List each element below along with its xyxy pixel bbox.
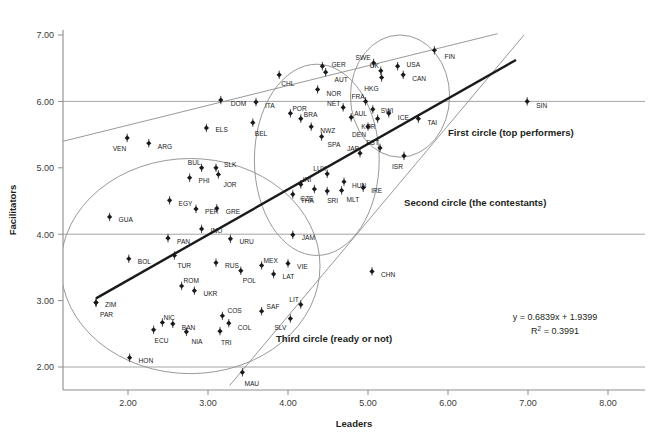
point-label: VIE bbox=[297, 263, 308, 270]
y-axis-title: Facilitators bbox=[7, 185, 18, 236]
point-label: NIA bbox=[191, 338, 203, 345]
point-label: NIC bbox=[163, 314, 175, 321]
data-point-jam[interactable]: JAM bbox=[290, 231, 315, 242]
point-label: SLK bbox=[224, 161, 237, 168]
data-point-nor[interactable]: NOR bbox=[315, 85, 341, 97]
point-label: SLV bbox=[274, 324, 287, 331]
point-label: IRE bbox=[371, 187, 383, 194]
data-point-vie[interactable]: VIE bbox=[285, 259, 308, 270]
point-label: BUL bbox=[188, 159, 201, 166]
data-point-est[interactable]: EST bbox=[366, 139, 382, 152]
data-point-lat[interactable]: LAT bbox=[271, 270, 294, 281]
data-point-saf[interactable]: SAF bbox=[259, 303, 279, 316]
data-point-lit[interactable]: LIT bbox=[289, 296, 303, 309]
data-point-ven[interactable]: VEN bbox=[113, 134, 130, 153]
data-point-kor[interactable]: KOR bbox=[361, 114, 380, 130]
data-point-ban[interactable]: BAN bbox=[170, 320, 195, 332]
data-point-nwz[interactable]: NWZ bbox=[309, 122, 336, 134]
data-point-ukr[interactable]: UKR bbox=[192, 286, 218, 297]
data-point-els[interactable]: ELS bbox=[204, 124, 229, 134]
point-label: MEX bbox=[264, 257, 279, 264]
point-label: GER bbox=[331, 61, 346, 68]
point-label: EST bbox=[366, 139, 379, 146]
data-point-sri[interactable]: SRI bbox=[325, 187, 339, 205]
data-point-tur[interactable]: TUR bbox=[172, 251, 191, 269]
point-label: URU bbox=[239, 238, 254, 245]
point-label: EGY bbox=[179, 200, 194, 207]
scatter-chart: FINSWEUSAUKCANHKGGERAUTCHLNORDOMITASINFR… bbox=[0, 0, 654, 446]
data-point-bra[interactable]: BRA bbox=[298, 111, 318, 123]
data-point-slv[interactable]: SLV bbox=[274, 314, 293, 331]
point-label: INI bbox=[303, 176, 312, 183]
point-label: JAP bbox=[347, 145, 360, 152]
data-point-ger[interactable]: GER bbox=[320, 61, 346, 71]
y-tick-label: 5.00 bbox=[36, 163, 54, 173]
equation-group: y = 0.6839x + 1.9399R2 = 0.3991 bbox=[513, 312, 598, 336]
point-label: TUR bbox=[177, 262, 191, 269]
point-label: DOM bbox=[231, 100, 246, 107]
point-label: DEN bbox=[352, 131, 366, 138]
data-point-pan[interactable]: PAN bbox=[165, 234, 190, 245]
data-point-tri[interactable]: TRI bbox=[217, 327, 231, 346]
data-point-rus[interactable]: RUS bbox=[213, 259, 239, 270]
point-label: PAN bbox=[177, 238, 190, 245]
data-point-per[interactable]: PER bbox=[193, 205, 218, 216]
point-label: THA bbox=[301, 197, 315, 204]
data-point-jor[interactable]: JOR bbox=[216, 170, 237, 188]
cluster-annotation: Third circle (ready or not) bbox=[276, 333, 392, 344]
data-point-mex[interactable]: MEX bbox=[259, 257, 278, 270]
point-label: CAN bbox=[412, 75, 426, 82]
data-point-bel[interactable]: BEL bbox=[250, 118, 267, 137]
x-tick-label: 6.00 bbox=[439, 398, 457, 408]
data-point-arg[interactable]: ARG bbox=[146, 139, 172, 150]
data-point-egy[interactable]: EGY bbox=[167, 196, 193, 207]
data-point-pol[interactable]: POL bbox=[238, 267, 256, 285]
point-label: ARG bbox=[158, 143, 172, 150]
data-point-chl[interactable]: CHL bbox=[277, 71, 295, 88]
data-point-isr[interactable]: ISR bbox=[392, 152, 407, 171]
point-label: NWZ bbox=[320, 127, 335, 134]
data-point-bul[interactable]: BUL bbox=[188, 159, 204, 172]
point-label: TRI bbox=[221, 339, 232, 346]
data-point-bol[interactable]: BOL bbox=[126, 255, 151, 266]
data-point-sin[interactable]: SIN bbox=[525, 97, 548, 109]
data-point-uk[interactable]: UK bbox=[370, 62, 384, 75]
data-point-gua[interactable]: GUA bbox=[107, 213, 133, 224]
data-point-cos[interactable]: COS bbox=[220, 307, 242, 320]
data-point-aut[interactable]: AUT bbox=[323, 68, 348, 83]
point-label: ELS bbox=[215, 126, 228, 133]
point-label: TAI bbox=[427, 119, 437, 126]
data-point-mau[interactable]: MAU bbox=[240, 368, 259, 387]
data-point-hkg[interactable]: HKG bbox=[364, 73, 384, 92]
data-point-spa[interactable]: SPA bbox=[319, 132, 341, 148]
point-label: SWE bbox=[356, 54, 372, 61]
x-tick-label: 2.00 bbox=[119, 398, 137, 408]
data-point-usa[interactable]: USA bbox=[395, 61, 421, 71]
data-point-hon[interactable]: HON bbox=[127, 354, 153, 365]
data-point-uru[interactable]: URU bbox=[228, 235, 254, 246]
data-point-ino[interactable]: INO bbox=[199, 225, 222, 235]
data-point-ita[interactable]: ITA bbox=[253, 98, 275, 110]
plot-area: FINSWEUSAUKCANHKGGERAUTCHLNORDOMITASINFR… bbox=[0, 0, 654, 446]
point-label: SRI bbox=[327, 197, 338, 204]
data-point-chn[interactable]: CHN bbox=[369, 267, 395, 278]
x-tick-label: 5.00 bbox=[359, 398, 377, 408]
data-point-ecu[interactable]: ECU bbox=[151, 326, 169, 345]
point-label: ISR bbox=[392, 163, 403, 170]
cluster-ellipses-group bbox=[61, 35, 450, 374]
data-point-slk[interactable]: SLK bbox=[213, 161, 237, 172]
point-label: MLT bbox=[347, 196, 360, 203]
data-point-rom[interactable]: ROM bbox=[179, 277, 199, 290]
data-point-aul[interactable]: AUL bbox=[349, 110, 368, 122]
point-label: ITA bbox=[265, 102, 275, 109]
cluster-annotation: First circle (top performers) bbox=[448, 127, 574, 138]
data-point-can[interactable]: CAN bbox=[401, 71, 427, 83]
x-axis-title: Leaders bbox=[336, 418, 372, 429]
point-label: ROM bbox=[184, 277, 199, 284]
point-label: FRA bbox=[351, 93, 365, 100]
point-label: PHI bbox=[199, 177, 210, 184]
data-point-fra[interactable]: FRA bbox=[351, 93, 368, 106]
data-point-phi[interactable]: PHI bbox=[187, 174, 210, 185]
data-point-col[interactable]: COL bbox=[226, 319, 251, 331]
point-label: POL bbox=[243, 277, 257, 284]
